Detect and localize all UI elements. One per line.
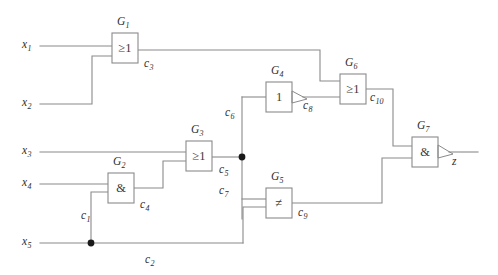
gate-name-g4: G4 [271, 65, 283, 77]
gate-name-g5: G5 [271, 171, 283, 183]
net-label-c3: c3 [144, 58, 153, 70]
gate-name-g1: G1 [117, 16, 129, 28]
gate-g7[interactable]: & [412, 137, 453, 167]
junction-dot-c5 [239, 154, 246, 161]
net-label-c5: c5 [219, 164, 228, 176]
wire-c2-to-g5 [243, 207, 266, 243]
gate-g6[interactable]: ≥1 [340, 74, 366, 104]
gate-name-g3: G3 [191, 124, 203, 136]
gate-g1-symbol: ≥1 [118, 41, 131, 55]
input-label-x2: x2 [22, 97, 31, 109]
gate-g5[interactable]: ≠ [266, 188, 292, 218]
gate-g4-symbol: 1 [276, 90, 282, 104]
gate-g7-symbol: & [420, 145, 430, 159]
net-label-c2: c2 [145, 254, 154, 266]
gate-g4[interactable]: 1 [266, 82, 307, 112]
gate-g2[interactable]: & [108, 173, 134, 203]
net-label-c7: c7 [219, 185, 228, 197]
net-label-c8: c8 [303, 100, 312, 112]
gate-g6-symbol: ≥1 [346, 82, 359, 96]
junction-dot-x5 [88, 240, 95, 247]
net-label-c6: c6 [225, 107, 234, 119]
gate-g5-symbol: ≠ [276, 196, 283, 210]
gate-g3-symbol: ≥1 [192, 149, 205, 163]
gate-name-g7: G7 [417, 120, 429, 132]
wire-c1-x5-to-g2 [91, 192, 108, 243]
logic-circuit-diagram: ≥1 & ≥1 1 ≠ ≥1 & [0, 0, 498, 275]
wire-c4-g2-to-g3 [134, 161, 186, 188]
input-label-x1: x1 [22, 39, 31, 51]
net-label-c9: c9 [298, 207, 307, 219]
gate-g3[interactable]: ≥1 [186, 141, 212, 171]
net-label-c1: c1 [81, 210, 90, 222]
net-label-c10: c10 [370, 92, 383, 104]
wire-c3-g1-to-g6 [138, 50, 340, 81]
gate-name-g6: G6 [345, 57, 357, 69]
output-label-z: z [452, 156, 456, 168]
gate-name-g2: G2 [113, 156, 125, 168]
input-label-x3: x3 [22, 145, 31, 157]
input-label-x5: x5 [22, 236, 31, 248]
circuit-svg: ≥1 & ≥1 1 ≠ ≥1 & [0, 0, 498, 275]
wire-c9-g5-to-g7 [292, 158, 412, 203]
wire-x2-to-g1 [40, 56, 112, 104]
input-label-x4: x4 [22, 177, 31, 189]
gate-g2-symbol: & [116, 181, 126, 195]
net-label-c4: c4 [140, 199, 149, 211]
gate-g1[interactable]: ≥1 [112, 33, 138, 63]
